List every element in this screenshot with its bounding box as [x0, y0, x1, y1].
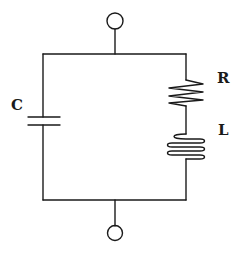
resistor-zigzag [169, 80, 203, 106]
inductor-coil [168, 134, 205, 159]
inductor-label: L [218, 123, 229, 138]
circuit-svg [0, 0, 239, 253]
top-terminal [107, 13, 123, 29]
resistor-label: R [217, 71, 229, 86]
bottom-terminal [108, 226, 123, 241]
circuit-diagram: C R L [0, 0, 239, 253]
capacitor-label: C [11, 98, 23, 113]
